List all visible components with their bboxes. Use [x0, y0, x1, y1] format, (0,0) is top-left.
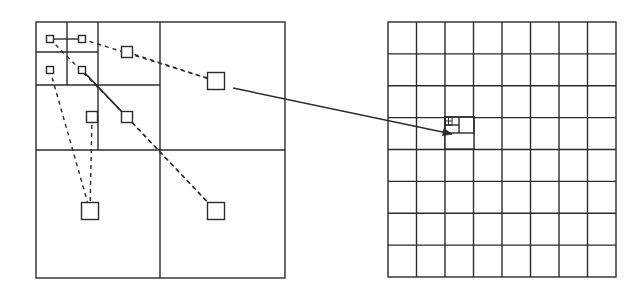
quadtree-node-leaf-level-2-sw: [82, 203, 99, 220]
quadtree-node-leaf-level-3-b: [87, 112, 98, 123]
quadtree-node-leaf-level-4-c: [47, 67, 54, 74]
quadtree-node-leaf-level-3-c: [122, 112, 133, 123]
quadtree-node-leaf-level-2-ne: [208, 73, 225, 90]
quadtree-node-leaf-level-3-a: [122, 47, 133, 58]
uniform-grid-panel: [388, 22, 616, 277]
quadtree-node-leaf-level-4-d: [79, 67, 86, 74]
quadtree-node-leaf-level-4-a: [47, 36, 54, 43]
quadtree-node-leaf-level-4-b: [79, 36, 86, 43]
quadtree-figure: [0, 0, 640, 295]
figure-canvas: [0, 0, 640, 295]
quadtree-node-leaf-level-2-se: [208, 203, 225, 220]
